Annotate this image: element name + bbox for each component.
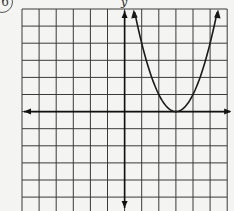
curve-left-arrow-icon bbox=[131, 9, 138, 18]
y-axis-down-arrow-icon bbox=[122, 201, 128, 208]
y-axis-up-arrow-icon bbox=[122, 11, 128, 18]
curve-right-arrow-icon bbox=[214, 9, 221, 18]
axes bbox=[24, 11, 231, 208]
x-axis-left-arrow-icon bbox=[24, 109, 31, 115]
coordinate-plane bbox=[0, 0, 234, 211]
